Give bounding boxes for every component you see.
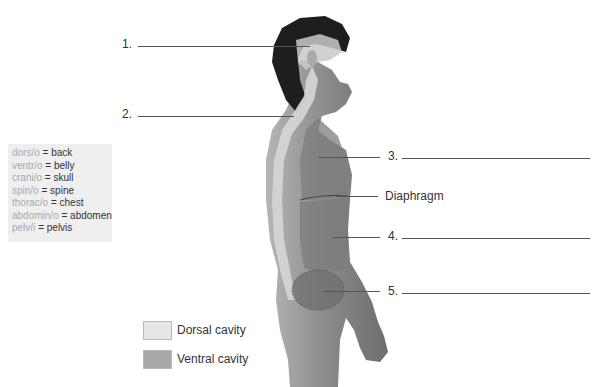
abdominal-cavity — [300, 198, 348, 272]
answer-blank-3[interactable] — [402, 158, 590, 159]
answer-blank-2[interactable] — [138, 116, 294, 117]
ear — [307, 50, 317, 66]
blank-number-3: 3. — [388, 149, 398, 163]
blank-number-4: 4. — [388, 229, 398, 243]
diaphragm-label: Diaphragm — [385, 189, 444, 203]
blank-number-1: 1. — [122, 37, 132, 51]
blank-number-2: 2. — [122, 107, 132, 121]
pelvic-cavity — [292, 270, 344, 310]
answer-blank-1-hit[interactable] — [138, 46, 310, 47]
answer-blank-5[interactable] — [402, 293, 590, 294]
legend-label-dorsal: Dorsal cavity — [177, 323, 246, 337]
legend-swatch-ventral — [143, 350, 172, 369]
legend-swatch-dorsal — [143, 321, 172, 340]
leader-line-4 — [333, 237, 380, 238]
body-figure — [0, 0, 602, 387]
legend-label-ventral: Ventral cavity — [177, 352, 248, 366]
thoracic-cavity — [300, 118, 346, 200]
leader-line-3 — [318, 157, 380, 158]
answer-blank-4[interactable] — [402, 238, 590, 239]
leader-line-5 — [323, 291, 380, 292]
leader-line-diaphragm — [336, 196, 378, 197]
blank-number-5: 5. — [388, 284, 398, 298]
